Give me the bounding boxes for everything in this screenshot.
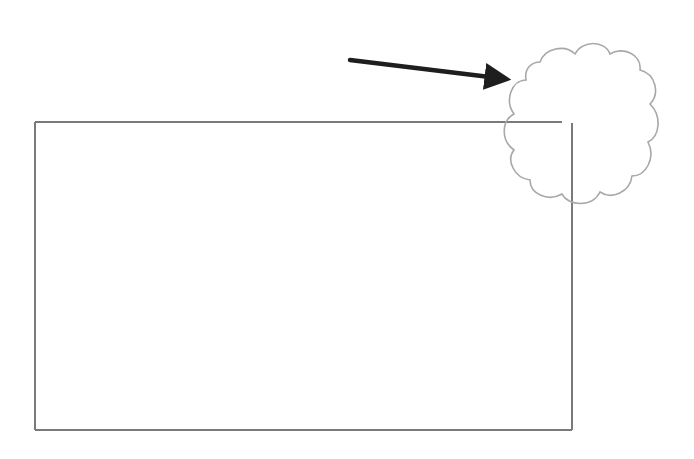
rectangle-shape	[35, 122, 572, 430]
cloud-shape	[504, 44, 658, 204]
arrow-shape	[350, 60, 498, 78]
diagram-canvas	[0, 0, 694, 459]
